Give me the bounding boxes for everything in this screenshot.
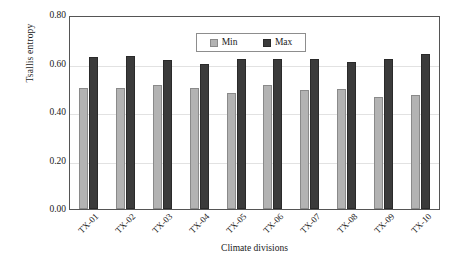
bar-max-tx-09: [384, 59, 393, 209]
bar-group: [337, 17, 356, 209]
y-axis-tick-label: 0.20: [32, 157, 66, 167]
y-axis-tick-label: 0.80: [32, 11, 66, 21]
bar-group: [153, 17, 172, 209]
bar-max-tx-02: [126, 56, 135, 209]
bar-max-tx-10: [421, 54, 430, 209]
legend-label: Min: [222, 38, 238, 48]
chart-legend: MinMax: [196, 33, 306, 52]
bar-group: [374, 17, 393, 209]
bar-min-tx-08: [337, 89, 346, 209]
legend-item-min: Min: [210, 38, 238, 48]
legend-label: Max: [275, 38, 292, 48]
bar-min-tx-04: [190, 88, 199, 209]
bar-min-tx-01: [79, 88, 88, 209]
bar-group: [411, 17, 430, 209]
bar-min-tx-10: [411, 95, 420, 209]
bar-max-tx-05: [237, 59, 246, 209]
y-axis-tick-label: 0.40: [32, 108, 66, 118]
bar-max-tx-08: [347, 62, 356, 209]
bar-max-tx-01: [89, 57, 98, 209]
legend-item-max: Max: [263, 38, 292, 48]
min-swatch-icon: [210, 39, 218, 47]
bar-max-tx-03: [163, 60, 172, 209]
bar-group: [116, 17, 135, 209]
bar-min-tx-03: [153, 85, 162, 209]
chart-container: Tsallis entropy 0.000.200.400.600.80 Min…: [0, 0, 454, 269]
bar-min-tx-07: [300, 90, 309, 209]
bar-group: [79, 17, 98, 209]
max-swatch-icon: [263, 39, 271, 47]
x-axis-title: Climate divisions: [69, 243, 440, 253]
y-axis-tick-label: 0.60: [32, 60, 66, 70]
bar-max-tx-04: [200, 64, 209, 210]
bar-max-tx-06: [273, 59, 282, 209]
bar-min-tx-05: [227, 93, 236, 209]
y-axis-tick-label: 0.00: [32, 205, 66, 215]
bar-min-tx-02: [116, 88, 125, 209]
bar-min-tx-09: [374, 97, 383, 209]
bar-max-tx-07: [310, 59, 319, 209]
y-axis-tick-labels: 0.000.200.400.600.80: [30, 0, 66, 269]
bar-min-tx-06: [263, 85, 272, 209]
